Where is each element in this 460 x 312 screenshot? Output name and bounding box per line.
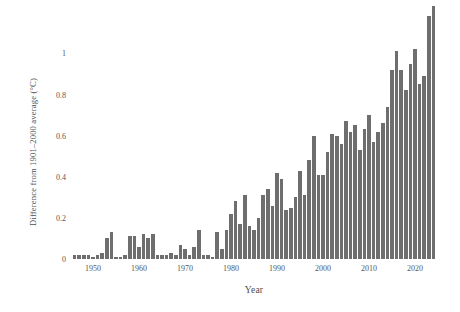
bar: [248, 226, 252, 259]
bar: [151, 234, 155, 259]
bar: [312, 136, 316, 259]
bar: [220, 249, 224, 259]
bar: [82, 255, 86, 259]
bar: [307, 160, 311, 259]
bar: [280, 179, 284, 259]
bar: [174, 255, 178, 259]
bar: [137, 247, 141, 259]
bar: [87, 255, 91, 259]
bar: [381, 123, 385, 259]
bar: [105, 238, 109, 259]
y-tick-label: 1: [62, 49, 66, 58]
bar: [376, 132, 380, 259]
x-axis-ticks: 19501960197019801990200020102020: [70, 264, 438, 278]
bar: [404, 90, 408, 259]
bar: [321, 175, 325, 259]
bar: [340, 144, 344, 259]
plot-area: 00.20.40.60.81: [70, 2, 438, 259]
x-tick-label: 2020: [407, 264, 423, 273]
bar: [422, 76, 426, 259]
bar: [271, 206, 275, 259]
x-tick-label: 1980: [223, 264, 239, 273]
bar-series: [70, 2, 438, 259]
bar: [160, 255, 164, 259]
x-tick-label: 1990: [269, 264, 285, 273]
y-axis-title: Difference from 1901–2000 average (°C): [28, 42, 38, 262]
bar: [317, 175, 321, 259]
bar: [367, 115, 371, 259]
bar: [114, 257, 118, 259]
x-tick-label: 1970: [177, 264, 193, 273]
bar: [266, 189, 270, 259]
bar: [372, 142, 376, 259]
bar: [179, 245, 183, 259]
bar: [165, 255, 169, 259]
bar: [183, 249, 187, 259]
x-tick-label: 2000: [315, 264, 331, 273]
bar: [146, 238, 150, 259]
bar: [330, 134, 334, 259]
bar: [252, 230, 256, 259]
bar: [335, 136, 339, 259]
bar: [206, 255, 210, 259]
bar: [133, 236, 137, 259]
y-tick-label: 0.2: [56, 213, 66, 222]
y-tick-label: 0.8: [56, 90, 66, 99]
bar: [243, 195, 247, 259]
bar: [289, 208, 293, 259]
bar: [363, 129, 367, 259]
bar: [303, 195, 307, 259]
bar: [284, 210, 288, 259]
bar: [110, 232, 114, 259]
x-tick-label: 2010: [361, 264, 377, 273]
bar: [409, 64, 413, 259]
bar: [77, 255, 81, 259]
bar: [326, 152, 330, 259]
bar: [427, 16, 431, 259]
bar: [123, 255, 127, 259]
bar: [169, 253, 173, 259]
bar: [211, 257, 215, 259]
x-tick-label: 1960: [131, 264, 147, 273]
y-tick-label: 0.6: [56, 131, 66, 140]
bar: [257, 218, 261, 259]
bar: [197, 230, 201, 259]
bar: [395, 51, 399, 259]
bar: [275, 173, 279, 259]
bar: [192, 247, 196, 259]
bar: [225, 230, 229, 259]
x-tick-label: 1950: [85, 264, 101, 273]
bar: [238, 224, 242, 259]
bar: [399, 70, 403, 259]
bar: [142, 234, 146, 259]
bar: [294, 197, 298, 259]
bar: [386, 107, 390, 259]
bar: [234, 201, 238, 259]
bar: [119, 257, 123, 259]
bar: [418, 84, 422, 259]
bar: [390, 70, 394, 259]
bar: [261, 195, 265, 259]
bar: [229, 214, 233, 259]
bar: [432, 6, 436, 259]
x-axis-title: Year: [70, 284, 438, 295]
bar: [73, 255, 77, 259]
y-tick-label: 0.4: [56, 172, 66, 181]
bar: [128, 236, 132, 259]
y-tick-label: 0: [62, 255, 66, 264]
bar: [344, 121, 348, 259]
bar: [358, 150, 362, 259]
bar: [349, 132, 353, 259]
bar: [353, 125, 357, 259]
bar: [413, 49, 417, 259]
bar: [156, 255, 160, 259]
bar: [100, 253, 104, 259]
bar: [96, 255, 100, 259]
bar: [202, 255, 206, 259]
bar: [298, 171, 302, 259]
bar: [215, 232, 219, 259]
temperature-anomaly-chart: Difference from 1901–2000 average (°C) 0…: [0, 0, 460, 312]
bar: [188, 255, 192, 259]
bar: [91, 257, 95, 259]
